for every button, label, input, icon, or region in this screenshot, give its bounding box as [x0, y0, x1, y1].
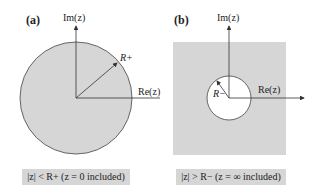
panel-a-radius-label: R+	[120, 52, 133, 63]
panel-b-caption: |z| > R− (z = ∞ included)	[176, 169, 286, 185]
panel-a-caption: |z| < R+ (z = 0 included)	[22, 169, 130, 185]
panel-a-re-label: Re(z)	[138, 86, 160, 97]
panel-b-plot	[173, 26, 304, 155]
panel-a-label: (a)	[26, 13, 40, 28]
panel-b-re-label: Re(z)	[258, 84, 280, 95]
panel-a-im-label: Im(z)	[63, 12, 85, 23]
panel-b-radius-label: R−	[213, 88, 226, 99]
panel-b-label: (b)	[174, 13, 189, 28]
panel-b-im-label: Im(z)	[217, 12, 239, 23]
